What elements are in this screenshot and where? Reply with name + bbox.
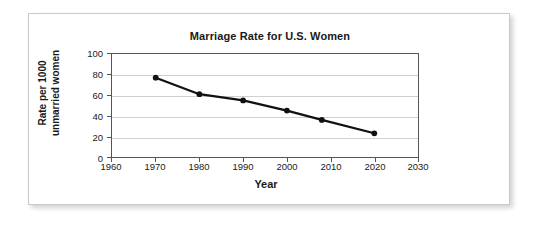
data-point-2008 [319,117,325,123]
chart-title: Marriage Rate for U.S. Women [29,30,511,42]
ytick-mark-60 [107,95,111,96]
x-axis-label: Year [111,178,421,190]
ytick-mark-40 [107,116,111,117]
xtick-label-2020: 2020 [355,161,395,172]
ytick-label-100: 100 [77,48,103,59]
y-axis-label-line1: Rate per 1000 [36,33,49,153]
plot-area [111,53,419,158]
ytick-label-80: 80 [77,69,103,80]
ytick-mark-100 [107,53,111,54]
xtick-label-2030: 2030 [398,161,438,172]
y-axis-label: Rate per 1000 unmarried women [36,33,70,153]
data-point-1980 [197,91,203,97]
xtick-label-1960: 1960 [91,161,131,172]
xtick-label-2000: 2000 [267,161,307,172]
data-point-1970 [153,75,159,81]
y-axis-label-line2: unmarried women [49,33,62,153]
ytick-label-60: 60 [77,90,103,101]
data-series-line [112,54,418,157]
xtick-label-1990: 1990 [223,161,263,172]
data-point-2000 [284,108,290,114]
ytick-label-40: 40 [77,111,103,122]
screenshot-root: Marriage Rate for U.S. Women Rate per 10… [0,0,544,226]
data-point-2020 [371,130,377,136]
data-point-1990 [240,98,246,104]
ytick-label-20: 20 [77,132,103,143]
xtick-label-1980: 1980 [179,161,219,172]
xtick-label-2010: 2010 [311,161,351,172]
trend-line [156,78,375,134]
ytick-mark-80 [107,74,111,75]
xtick-label-1970: 1970 [135,161,175,172]
chart-card: Marriage Rate for U.S. Women Rate per 10… [28,13,510,205]
ytick-mark-20 [107,137,111,138]
